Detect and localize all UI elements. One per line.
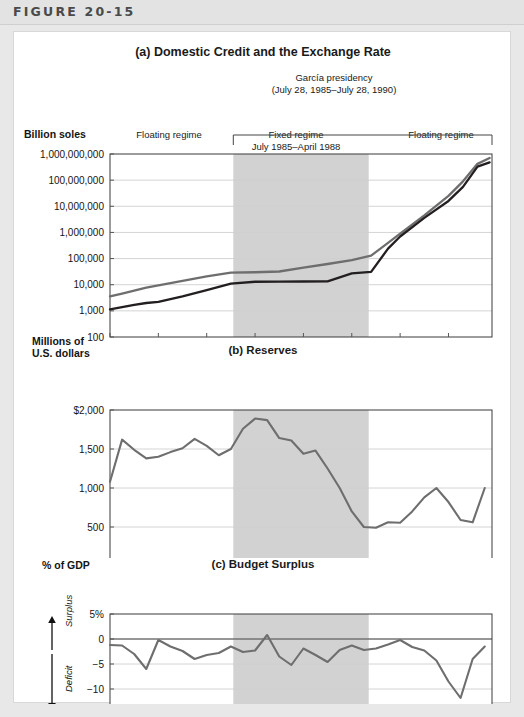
garcia-presidency-bracket xyxy=(233,135,492,145)
figure-panel: (a) Domestic Credit and the Exchange Rat… xyxy=(13,31,511,703)
panel-a-plot: 198319841985198619871988198919901,000,00… xyxy=(14,32,512,342)
panel-c-title: (c) Budget Surplus xyxy=(14,558,512,570)
y-tick-label: 500 xyxy=(87,522,104,533)
y-tick-label: 100,000,000 xyxy=(48,175,104,186)
panel-b-plot: 19831984198519861987198819891990$2,0001,… xyxy=(14,358,512,558)
figure-number-label: FIGURE 20-15 xyxy=(13,4,136,19)
y-tick-label: $2,000 xyxy=(73,405,104,416)
y-tick-label: 1,500 xyxy=(79,444,104,455)
figure-header-bar: FIGURE 20-15 xyxy=(0,0,524,25)
y-tick-label: −10 xyxy=(87,684,104,695)
figure-root: FIGURE 20-15 (a) Domestic Credit and the… xyxy=(0,0,524,717)
y-tick-label: 1,000,000,000 xyxy=(40,149,104,160)
y-tick-label: 1,000 xyxy=(79,305,104,316)
y-tick-label: 1,000,000 xyxy=(60,227,105,238)
y-tick-label: 10,000 xyxy=(73,279,104,290)
y-tick-label: 5% xyxy=(90,609,105,620)
y-tick-label: 10,000,000 xyxy=(54,201,104,212)
y-tick-label: 0 xyxy=(98,634,104,645)
panel-c-plot: 198319841985198619871988198919905%0−5−10… xyxy=(14,572,512,704)
panel-b-title: (b) Reserves xyxy=(14,344,512,356)
shaded-regime-band xyxy=(233,410,368,558)
y-tick-label: −5 xyxy=(93,659,105,670)
y-tick-label: 1,000 xyxy=(79,483,104,494)
surplus-deficit-arrows xyxy=(48,616,56,704)
shaded-regime-band xyxy=(233,154,368,337)
y-tick-label: 100,000 xyxy=(68,253,105,264)
shaded-regime-band xyxy=(233,614,368,704)
y-tick-label: 100 xyxy=(87,332,104,343)
